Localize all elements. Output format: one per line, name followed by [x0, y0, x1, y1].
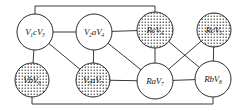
graph-edge	[168, 41, 200, 68]
graph-node-V2aV4[interactable]	[76, 14, 112, 50]
graph-node-RcV4[interactable]	[137, 12, 173, 48]
graph-edge	[107, 43, 142, 71]
graph-svg	[0, 0, 245, 111]
graph-edge	[172, 80, 196, 81]
graph-node-VbV6[interactable]	[15, 63, 49, 97]
graph-edge	[48, 43, 81, 70]
graph-edge	[111, 31, 138, 32]
graph-edge	[32, 97, 213, 104]
graph-node-RcV5[interactable]	[197, 13, 231, 47]
graph-node-RbV8[interactable]	[195, 61, 231, 97]
edge-layer	[32, 6, 214, 104]
diagram-canvas: V1cV3V2aV4RcV4RcV5VbV6V5aV7RaV7RbV8	[0, 0, 245, 111]
graph-node-V5aV7[interactable]	[76, 63, 110, 97]
graph-node-RaV7[interactable]	[137, 63, 173, 99]
graph-node-V1cV3[interactable]	[17, 14, 53, 50]
graph-edge	[35, 6, 155, 14]
graph-edge	[33, 49, 34, 64]
